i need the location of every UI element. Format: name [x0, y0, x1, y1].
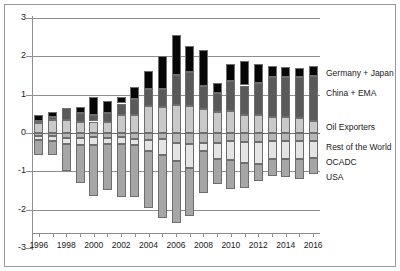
bar-segment: [199, 109, 208, 133]
y-axis-line: [32, 16, 33, 250]
bar-segment: [295, 141, 304, 159]
legend-item-germany-japan[interactable]: Germany + Japan: [326, 68, 394, 78]
y-axis-labels: 3210-1-2-3: [0, 0, 26, 271]
bar-segment: [213, 93, 222, 112]
bar-segment: [254, 64, 263, 83]
legend-item-usa[interactable]: USA: [326, 172, 343, 182]
bar-2001[interactable]: [103, 0, 112, 271]
y-tick-label: 0: [6, 128, 26, 137]
bar-1999[interactable]: [76, 0, 85, 271]
bar-segment: [130, 139, 139, 146]
bar-segment: [117, 104, 126, 116]
bar-2010[interactable]: [226, 0, 235, 271]
bar-segment: [213, 83, 222, 93]
bar-2014[interactable]: [281, 0, 290, 271]
bar-segment: [309, 141, 318, 159]
bar-segment: [103, 113, 112, 122]
y-tick-label: 2: [6, 51, 26, 60]
legend-item-ocadc[interactable]: OCADC: [326, 157, 357, 167]
bar-segment: [240, 133, 249, 142]
bar-segment: [89, 115, 98, 122]
legend-item-china-ema[interactable]: China + EMA: [326, 88, 376, 98]
legend-item-rest-of-the-world[interactable]: Rest of the World: [326, 142, 392, 152]
bar-2011[interactable]: [240, 0, 249, 271]
bar-segment: [295, 77, 304, 118]
bar-segment: [268, 77, 277, 116]
bar-2009[interactable]: [213, 0, 222, 271]
bar-segment: [158, 89, 167, 107]
bar-segment: [89, 137, 98, 145]
bar-segment: [34, 115, 43, 120]
bar-2002[interactable]: [117, 0, 126, 271]
bar-segment: [158, 155, 167, 219]
bar-segment: [309, 133, 318, 141]
bar-segment: [226, 133, 235, 141]
bar-segment: [268, 66, 277, 77]
bar-segment: [254, 142, 263, 164]
bar-2007[interactable]: [185, 0, 194, 271]
bar-segment: [199, 133, 208, 143]
bar-segment: [281, 67, 290, 77]
bar-segment: [117, 115, 126, 133]
bar-2000[interactable]: [89, 0, 98, 271]
bar-segment: [144, 89, 153, 106]
bar-segment: [144, 106, 153, 133]
bar-2015[interactable]: [295, 0, 304, 271]
bar-segment: [295, 68, 304, 78]
bar-segment: [103, 138, 112, 145]
bar-segment: [240, 61, 249, 86]
bar-segment: [254, 164, 263, 181]
bar-segment: [309, 158, 318, 173]
bar-segment: [76, 138, 85, 145]
bar-segment: [309, 66, 318, 75]
bar-1997[interactable]: [48, 0, 57, 271]
bar-segment: [281, 159, 290, 176]
bar-segment: [117, 97, 126, 104]
bar-2006[interactable]: [172, 0, 181, 271]
legend-item-oil-exporters[interactable]: Oil Exporters: [326, 122, 375, 132]
bar-segment: [185, 72, 194, 106]
y-tick-label: 1: [6, 90, 26, 99]
bar-segment: [281, 141, 290, 159]
bar-segment: [226, 64, 235, 82]
bar-segment: [281, 117, 290, 133]
y-tick-label: -2: [6, 205, 26, 214]
bar-segment: [199, 143, 208, 150]
bar-2005[interactable]: [158, 0, 167, 271]
bar-segment: [89, 97, 98, 115]
bar-segment: [254, 115, 263, 133]
bar-segment: [240, 163, 249, 188]
bar-segment: [199, 86, 208, 110]
bar-segment: [144, 140, 153, 150]
bar-2013[interactable]: [268, 0, 277, 271]
bar-segment: [268, 159, 277, 176]
bar-2012[interactable]: [254, 0, 263, 271]
bar-segment: [130, 145, 139, 197]
bar-segment: [144, 133, 153, 140]
bar-segment: [144, 151, 153, 208]
bar-segment: [62, 120, 71, 133]
bar-segment: [117, 144, 126, 196]
bar-2008[interactable]: [199, 0, 208, 271]
bar-2003[interactable]: [130, 0, 139, 271]
bar-segment: [89, 145, 98, 196]
bar-segment: [172, 105, 181, 133]
bar-segment: [295, 118, 304, 133]
bar-segment: [130, 115, 139, 133]
bar-segment: [117, 137, 126, 145]
y-tick-label: 3: [6, 13, 26, 22]
bar-segment: [213, 143, 222, 159]
bar-2004[interactable]: [144, 0, 153, 271]
bar-segment: [158, 139, 167, 155]
bar-segment: [185, 46, 194, 72]
bar-segment: [62, 138, 71, 145]
bar-1998[interactable]: [62, 0, 71, 271]
bar-segment: [103, 101, 112, 114]
bar-segment: [48, 117, 57, 120]
bar-segment: [76, 122, 85, 133]
bar-segment: [268, 133, 277, 141]
bar-2016[interactable]: [309, 0, 318, 271]
bar-1996[interactable]: [34, 0, 43, 271]
bar-segment: [199, 50, 208, 85]
bar-segment: [172, 161, 181, 223]
